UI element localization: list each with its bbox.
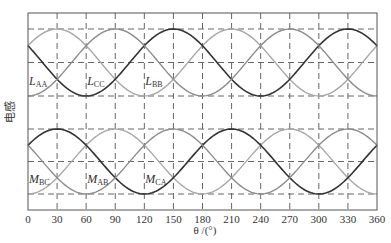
x-tick-label: 300 — [311, 213, 328, 225]
x-tick-label: 360 — [369, 213, 386, 225]
label-l-aa: LAA — [28, 74, 47, 89]
x-tick-label: 0 — [25, 213, 31, 225]
label-l-bb: LBB — [144, 74, 162, 89]
x-tick-label: 330 — [340, 213, 357, 225]
x-tick-label: 90 — [110, 213, 122, 225]
plot-frame — [28, 13, 377, 210]
label-m-ca: MCA — [144, 172, 166, 187]
x-tick-label: 30 — [52, 213, 64, 225]
x-axis-label: θ /(°) — [194, 224, 217, 237]
x-tick-label: 240 — [252, 213, 269, 225]
x-tick-label: 210 — [223, 213, 240, 225]
x-tick-label: 120 — [136, 213, 153, 225]
y-axis-label: 电感 — [4, 101, 16, 123]
label-m-ab: MAB — [86, 172, 108, 187]
x-tick-label: 270 — [282, 213, 299, 225]
gridlines — [28, 13, 377, 210]
x-tick-label: 150 — [165, 213, 182, 225]
x-tick-label: 60 — [81, 213, 93, 225]
inductance-chart: LAALCCLBBMBCMABMCA 030609012015018021024… — [0, 0, 391, 243]
label-l-cc: LCC — [86, 74, 104, 89]
label-m-bc: MBC — [28, 172, 50, 187]
